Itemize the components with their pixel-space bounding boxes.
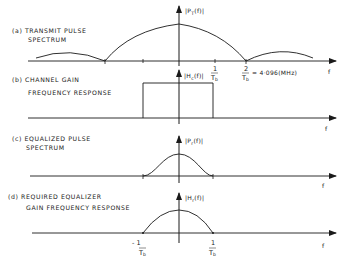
panel-d-pos-tick-label: 1 Tb xyxy=(208,239,216,257)
panel-b-y-label: |Hc(f)| xyxy=(184,72,204,81)
svg-text:Tb: Tb xyxy=(210,74,218,82)
panel-b-rect-response xyxy=(143,83,213,118)
svg-text:Tb: Tb xyxy=(241,74,249,82)
panel-d-caption-line1: (d) REQUIRED EQUALIZER xyxy=(8,193,102,200)
panel-d-neg-tick-label: - 1 Tb xyxy=(132,239,146,257)
panel-a-f-label: f xyxy=(328,68,331,75)
panel-b-f-label: f xyxy=(325,125,328,132)
svg-text:Tb: Tb xyxy=(208,249,216,257)
panel-b-caption-line1: (b) CHANNEL GAIN xyxy=(12,76,80,83)
panel-d-f-label: f xyxy=(322,242,325,249)
panel-a-tick-1-over-tb: 1 Tb xyxy=(210,65,218,82)
panel-a-y-label: |PT(f)| xyxy=(185,7,204,16)
svg-text:- 1: - 1 xyxy=(132,239,141,247)
equalizer-spectrum-diagram: (a) TRANSMIT PULSE SPECTRUM |PT(f)| 1 Tb… xyxy=(0,0,348,269)
panel-c-f-label: f xyxy=(322,182,325,189)
svg-text:2: 2 xyxy=(244,65,248,73)
panel-a-bitrate-value: = 4·096(MHz) xyxy=(252,69,297,76)
panel-a-caption-line2: SPECTRUM xyxy=(28,36,67,43)
svg-text:Tb: Tb xyxy=(138,249,146,257)
panel-c-equalized-pulse-spectrum: (c) EQUALIZED PULSE SPECTRUM |Pr(f)| f xyxy=(12,135,336,189)
panel-d-equalizer-curve xyxy=(143,210,213,233)
panel-a-caption-line1: (a) TRANSMIT PULSE xyxy=(12,27,86,34)
panel-c-caption-line1: (c) EQUALIZED PULSE xyxy=(12,135,91,142)
panel-d-caption-line2: GAIN FREQUENCY RESPONSE xyxy=(26,204,130,211)
panel-a-transmit-pulse-spectrum: (a) TRANSMIT PULSE SPECTRUM |PT(f)| 1 Tb… xyxy=(12,6,336,82)
panel-d-y-label: |Hr(f)| xyxy=(185,194,204,203)
panel-b-caption-line2: FREQUENCY RESPONSE xyxy=(28,89,112,96)
panel-c-y-label: |Pr(f)| xyxy=(185,137,203,146)
svg-text:1: 1 xyxy=(213,65,217,73)
panel-c-raised-cosine-curve xyxy=(143,154,213,176)
panel-b-channel-gain: (b) CHANNEL GAIN FREQUENCY RESPONSE |Hc(… xyxy=(12,70,336,132)
svg-text:1: 1 xyxy=(211,239,215,247)
panel-d-required-equalizer: (d) REQUIRED EQUALIZER GAIN FREQUENCY RE… xyxy=(8,193,336,257)
panel-c-caption-line2: SPECTRUM xyxy=(26,144,65,151)
panel-a-tick-2-over-tb: 2 Tb = 4·096(MHz) xyxy=(241,65,297,82)
